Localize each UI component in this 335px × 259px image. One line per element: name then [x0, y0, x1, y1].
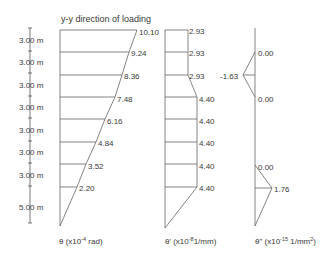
- height-label: 3.00 m: [19, 103, 44, 112]
- theta-prime-value: 4.40: [199, 139, 215, 148]
- height-label: 3.00 m: [19, 36, 44, 45]
- theta-prime-value: 2.93: [189, 27, 205, 36]
- theta-double-prime-value: -1.63: [220, 72, 239, 81]
- theta-panel: [60, 30, 137, 226]
- theta-prime-value: 2.93: [189, 72, 205, 81]
- height-label: 3.00 m: [19, 58, 44, 67]
- height-label: 3.00 m: [19, 126, 44, 135]
- height-label: 5.00 m: [19, 203, 44, 212]
- theta-double-prime-value: 0.00: [258, 95, 274, 104]
- theta-prime-value: 4.40: [199, 162, 215, 171]
- theta-value: 4.84: [98, 139, 114, 148]
- diagram-title: y-y direction of loading: [61, 14, 151, 24]
- theta-prime-value: 2.93: [189, 49, 205, 58]
- theta-prime-value: 4.40: [199, 184, 215, 193]
- theta-value: 9.24: [131, 49, 147, 58]
- diagram-canvas: y-y direction of loading 3.00 m 3.00 m 3…: [0, 0, 335, 259]
- theta-value: 3.52: [88, 162, 104, 171]
- theta-double-prime-value: 0.00: [258, 49, 274, 58]
- theta-value: 2.20: [79, 184, 95, 193]
- theta-prime-panel: [165, 30, 197, 228]
- height-label: 3.00 m: [19, 81, 44, 90]
- height-label: 3.00 m: [19, 171, 44, 180]
- theta-value: 7.48: [117, 95, 133, 104]
- theta-double-prime-value: 0.00: [258, 163, 274, 172]
- theta-double-prime-axis-label: θ" (x10-15 1/mm2): [255, 236, 316, 246]
- theta-prime-value: 4.40: [199, 117, 215, 126]
- theta-values: 10.10 9.24 8.36 7.48 6.16 4.84 3.52 2.20: [79, 28, 160, 193]
- theta-value: 10.10: [139, 28, 160, 37]
- theta-double-prime-value: 1.76: [274, 185, 290, 194]
- height-label: 3.00 m: [19, 148, 44, 157]
- theta-value: 8.36: [124, 72, 140, 81]
- theta-axis-label: θ (x10-4 rad): [59, 236, 103, 246]
- theta-value: 6.16: [107, 117, 123, 126]
- theta-prime-value: 4.40: [199, 95, 215, 104]
- theta-prime-axis-label: θ' (x10-81/mm): [165, 236, 217, 246]
- theta-prime-values: 2.93 2.93 2.93 4.40 4.40 4.40 4.40 4.40: [189, 27, 215, 193]
